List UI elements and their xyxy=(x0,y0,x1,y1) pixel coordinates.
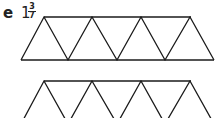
triangle-strip-row-2 xyxy=(21,81,214,118)
triangle-strips-diagram xyxy=(0,0,217,118)
triangle-strip-row-1 xyxy=(21,17,214,60)
